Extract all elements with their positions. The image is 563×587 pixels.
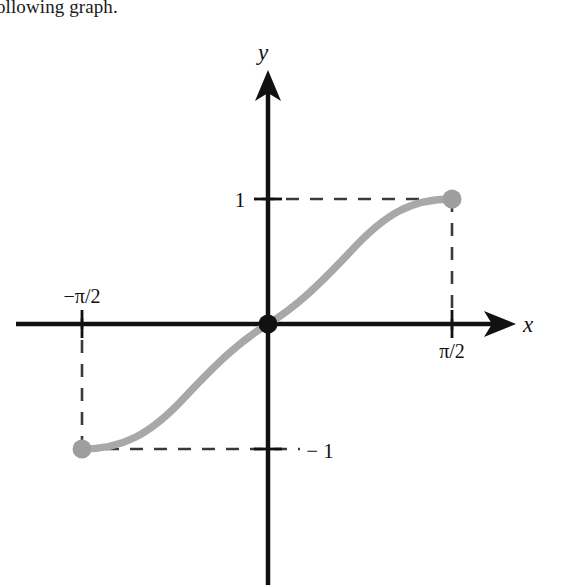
curve-endpoint-right-marker xyxy=(443,190,462,209)
origin-marker xyxy=(259,315,278,334)
y-tick-label-negative-one: − 1 xyxy=(306,439,334,463)
curve-endpoint-left-marker xyxy=(73,440,92,459)
x-tick-label-positive-pi-over-2: π/2 xyxy=(439,340,465,362)
x-tick-label-negative-pi-over-2: −π/2 xyxy=(64,285,101,307)
y-axis-label: y xyxy=(256,40,269,65)
x-axis-label: x xyxy=(522,312,534,337)
graph-figure: y x −π/2 π/2 1 − 1 xyxy=(0,0,563,587)
y-tick-label-positive-one: 1 xyxy=(235,188,246,212)
figure-page: ollowing graph. y x −π/2 π/2 1 xyxy=(0,0,563,587)
